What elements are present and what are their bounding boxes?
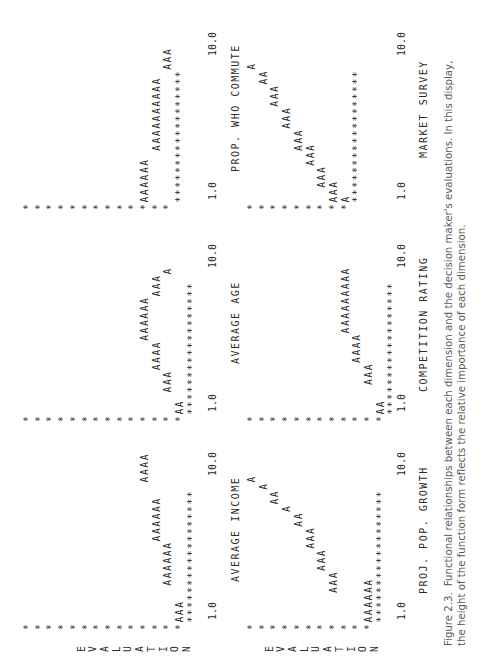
x-min-tick: 1.0 (207, 182, 218, 200)
figure-caption: Figure 2.3.Functional relationships betw… (442, 46, 468, 646)
x-min-tick: 1.0 (396, 602, 407, 620)
panel-proj-pop-growth: * A * A * AA * A * AA * AAA * AAA * AAA … (232, 444, 437, 644)
x-axis-label: PROJ. POP. GROWTH (418, 466, 429, 594)
x-axis-label: MARKET SURVEY (418, 60, 429, 158)
ascii-plot: * A * AA * AAA * AAA * AAA * AAA * AAA *… (246, 62, 363, 210)
x-max-tick: 10.0 (207, 452, 218, 476)
x-min-tick: 1.0 (396, 182, 407, 200)
panel-competition-rating: * * * * * * * * * AAAAAAAAA * AAAA * AAA… (232, 236, 437, 436)
x-min-tick: 1.0 (207, 602, 218, 620)
ascii-plot: * * * * * * * * * * * AAAAAA * AAAA AAA … (22, 267, 198, 422)
x-max-tick: 10.0 (207, 32, 218, 56)
y-axis-label-evaluation: E V A L U A T I O N (76, 645, 193, 652)
ascii-plot: * * * * * * * * * * * AAAA * AAAAAA * AA… (22, 453, 198, 630)
x-max-tick: 10.0 (396, 452, 407, 476)
x-max-tick: 10.0 (396, 32, 407, 56)
x-max-tick: 10.0 (207, 244, 218, 268)
x-min-tick: 1.0 (396, 394, 407, 412)
ascii-plot: * * * * * * * * * * *AAAAAA * AAAAAAAAAA… (22, 48, 186, 210)
x-min-tick: 1.0 (207, 394, 218, 412)
panel-average-income: * * * * * * * * * * * AAAA * AAAAAA * AA… (12, 444, 217, 644)
ascii-plot: * A * A * AA * A * AA * AAA * AAA * AAA … (246, 475, 386, 630)
panel-prop-who-commute: * * * * * * * * * * *AAAAAA * AAAAAAAAAA… (12, 24, 217, 224)
panel-market-survey: * A * AA * AAA * AAA * AAA * AAA * AAA *… (232, 24, 437, 224)
x-max-tick: 10.0 (396, 244, 407, 268)
x-axis-label: COMPETITION RATING (418, 257, 429, 392)
figure-number: Figure 2.3. (443, 592, 454, 646)
rotated-book-page: * * * * * * * * * * * AAAA * AAAAAA * AA… (0, 0, 497, 666)
ascii-plot: * * * * * * * * * AAAAAAAAA * AAAA * AAA… (246, 267, 398, 422)
panel-average-age: * * * * * * * * * * * AAAAAA * AAAA AAA … (12, 236, 217, 436)
caption-text: Functional relationships between each di… (443, 61, 467, 646)
y-axis-label-evaluation: E V A L U A T I O N (264, 645, 381, 652)
